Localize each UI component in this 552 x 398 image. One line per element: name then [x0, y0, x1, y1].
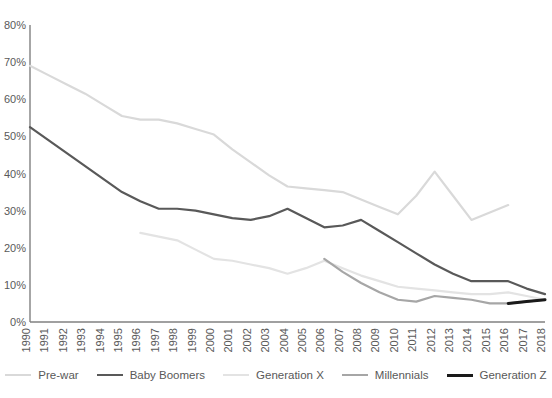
legend-item-label: Millennials	[375, 369, 429, 381]
legend-item[interactable]: Pre-war	[5, 369, 78, 381]
legend-item[interactable]: Millennials	[342, 369, 429, 381]
x-axis-tick-label: 1995	[112, 328, 124, 352]
chart-plot-area: 0%10%20%30%40%50%60%70%80%19901991199219…	[0, 0, 552, 366]
x-axis-tick-label: 2003	[259, 328, 271, 352]
legend-color-swatch	[447, 374, 473, 377]
legend-item-label: Baby Boomers	[130, 369, 205, 381]
series-line	[140, 233, 545, 300]
x-axis-tick-label: 2002	[241, 328, 253, 352]
x-axis-tick-label: 2008	[351, 328, 363, 352]
chart-legend: Pre-warBaby BoomersGeneration XMillennia…	[0, 364, 552, 386]
x-axis-tick-label: 1997	[149, 328, 161, 352]
x-axis-tick-label: 2005	[296, 328, 308, 352]
legend-color-swatch	[97, 374, 123, 376]
x-axis-tick-label: 2010	[388, 328, 400, 352]
x-axis-tick-label: 2015	[480, 328, 492, 352]
legend-item-label: Pre-war	[38, 369, 78, 381]
x-axis-tick-label: 2012	[425, 328, 437, 352]
x-axis-tick-label: 2017	[517, 328, 529, 352]
x-axis-tick-label: 1999	[186, 328, 198, 352]
y-axis-tick-label: 60%	[4, 93, 26, 105]
x-axis-tick-label: 2018	[535, 328, 547, 352]
x-axis-tick-label: 2001	[222, 328, 234, 352]
line-chart: 0%10%20%30%40%50%60%70%80%19901991199219…	[0, 0, 552, 398]
x-axis-tick-label: 2009	[369, 328, 381, 352]
y-axis-tick-label: 70%	[4, 56, 26, 68]
x-axis-tick-label: 1994	[94, 328, 106, 352]
legend-color-swatch	[223, 374, 249, 376]
legend-item-label: Generation Z	[480, 369, 547, 381]
x-axis-tick-label: 2011	[406, 328, 418, 352]
y-axis-tick-label: 80%	[4, 19, 26, 31]
series-line	[508, 300, 545, 304]
x-axis-tick-label: 1992	[57, 328, 69, 352]
legend-color-swatch	[5, 374, 31, 376]
y-axis-tick-label: 50%	[4, 130, 26, 142]
x-axis-tick-label: 2006	[314, 328, 326, 352]
series-line	[30, 127, 545, 294]
y-axis-tick-label: 20%	[4, 242, 26, 254]
x-axis-tick-label: 2013	[443, 328, 455, 352]
series-line	[30, 66, 508, 220]
x-axis-tick-label: 1991	[38, 328, 50, 352]
x-axis-tick-label: 1993	[75, 328, 87, 352]
x-axis-tick-label: 1998	[167, 328, 179, 352]
y-axis-tick-label: 30%	[4, 205, 26, 217]
legend-item[interactable]: Generation X	[223, 369, 324, 381]
legend-item[interactable]: Generation Z	[447, 369, 547, 381]
x-axis-tick-label: 1990	[20, 328, 32, 352]
x-axis-tick-label: 2007	[333, 328, 345, 352]
legend-item-label: Generation X	[256, 369, 324, 381]
legend-color-swatch	[342, 374, 368, 376]
x-axis-tick-label: 2004	[278, 328, 290, 352]
x-axis-tick-label: 2000	[204, 328, 216, 352]
y-axis-tick-label: 10%	[4, 279, 26, 291]
x-axis-tick-label: 1996	[130, 328, 142, 352]
y-axis-tick-label: 0%	[10, 316, 26, 328]
legend-item[interactable]: Baby Boomers	[97, 369, 205, 381]
x-axis-tick-label: 2014	[461, 328, 473, 352]
y-axis-tick-label: 40%	[4, 168, 26, 180]
x-axis-tick-label: 2016	[498, 328, 510, 352]
